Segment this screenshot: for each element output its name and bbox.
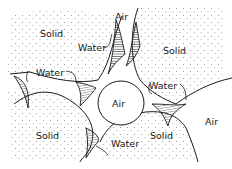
label-solid-top-right: Solid bbox=[163, 46, 186, 56]
soil-pore-diagram: Solid Solid Solid Solid Air Air Air Wate… bbox=[0, 0, 232, 169]
water-film-center-left bbox=[76, 82, 96, 106]
label-solid-bottom-right: Solid bbox=[150, 131, 173, 141]
label-air-top: Air bbox=[115, 12, 128, 22]
label-water-left: Water bbox=[36, 68, 64, 78]
label-water-top: Water bbox=[78, 43, 106, 53]
label-water-right: Water bbox=[149, 81, 177, 91]
label-air-center: Air bbox=[112, 99, 125, 109]
label-solid-bottom-left: Solid bbox=[36, 131, 59, 141]
label-solid-top-left: Solid bbox=[40, 29, 63, 39]
solid-bottom-left bbox=[8, 86, 92, 160]
water-film-bottom bbox=[86, 128, 98, 158]
label-water-bottom: Water bbox=[111, 139, 139, 149]
label-air-right: Air bbox=[205, 117, 218, 127]
